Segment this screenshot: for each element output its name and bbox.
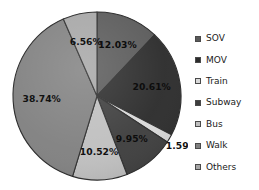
- legend-swatch-icon: [195, 36, 201, 42]
- pie-slice-label: 9.95%: [116, 133, 148, 144]
- legend-swatch-icon: [195, 143, 201, 149]
- pie-slice-label: 20.61%: [133, 81, 171, 92]
- legend-swatch-icon: [195, 121, 201, 127]
- legend-swatch-icon: [195, 78, 201, 84]
- legend-item-label: MOV: [206, 56, 227, 65]
- legend-swatch-icon: [195, 57, 201, 63]
- pie-slice-label: 6.56%: [70, 36, 102, 47]
- chart-legend: SOVMOVTrainSubwayBusWalkOthers: [195, 28, 257, 180]
- pie-slice-label: 38.74%: [23, 93, 61, 104]
- legend-item[interactable]: Others: [195, 156, 257, 177]
- legend-item-label: Subway: [206, 98, 241, 107]
- pie-svg: 12.03%20.61%1.59%9.95%10.52%38.74%6.56%: [6, 6, 188, 186]
- pie-slice-label: 10.52%: [80, 146, 118, 157]
- legend-swatch-icon: [195, 164, 201, 170]
- legend-item[interactable]: SOV: [195, 28, 257, 49]
- legend-item[interactable]: MOV: [195, 49, 257, 70]
- legend-item-label: SOV: [206, 34, 225, 43]
- pie-slice-label: 1.59%: [166, 140, 188, 151]
- legend-item[interactable]: Train: [195, 71, 257, 92]
- legend-item-label: Walk: [206, 141, 228, 150]
- legend-swatch-icon: [195, 100, 201, 106]
- legend-item[interactable]: Subway: [195, 92, 257, 113]
- legend-item-label: Bus: [206, 120, 223, 129]
- pie-plot-area: 12.03%20.61%1.59%9.95%10.52%38.74%6.56%: [6, 6, 188, 186]
- legend-item[interactable]: Bus: [195, 114, 257, 135]
- pie-slice-label: 12.03%: [98, 39, 136, 50]
- legend-item[interactable]: Walk: [195, 135, 257, 156]
- legend-item-label: Train: [206, 77, 228, 86]
- legend-item-label: Others: [206, 163, 236, 172]
- pie-chart-figure: 12.03%20.61%1.59%9.95%10.52%38.74%6.56% …: [0, 0, 259, 190]
